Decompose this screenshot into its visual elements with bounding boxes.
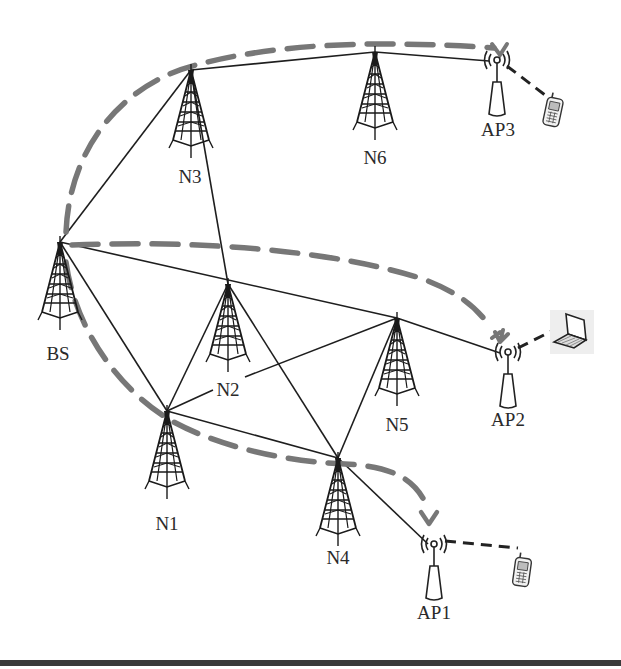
device-phone-ap3[interactable]: [542, 92, 565, 128]
laptop-icon: [550, 310, 594, 354]
wireless-ap1-phone: [445, 541, 518, 548]
access-point-icon: [422, 535, 447, 600]
tower-bs[interactable]: [38, 236, 82, 330]
tower-icon: [353, 46, 397, 140]
backbone-links: [60, 52, 500, 544]
access-point-icon: [485, 51, 510, 116]
link-n5-n4: [338, 318, 397, 458]
tower-icon: [375, 312, 419, 406]
label-n3: N3: [178, 166, 201, 187]
tower-n3[interactable]: [169, 64, 213, 158]
routing-paths: [66, 44, 508, 524]
device-laptop-ap2[interactable]: [550, 310, 594, 354]
route-to-ap3: [66, 44, 494, 232]
tower-n1[interactable]: [145, 405, 189, 499]
route-to-ap2: [72, 244, 488, 324]
tower-n2[interactable]: [206, 278, 250, 372]
label-ap3: AP3: [481, 119, 515, 140]
access-point-icon: [496, 343, 521, 408]
tower-icon: [145, 405, 189, 499]
access-point-ap3[interactable]: [485, 51, 510, 116]
device-phone-ap1[interactable]: [512, 552, 532, 587]
bottom-rule: [0, 660, 621, 666]
tower-icon: [169, 64, 213, 158]
arrowhead-ap1: [421, 512, 437, 524]
mobile-phone-icon: [542, 92, 565, 128]
tower-n5[interactable]: [375, 312, 419, 406]
node-labels: BS N1 N2 N3 N4 N5 N6 AP1 AP2 AP3: [46, 119, 525, 623]
mobile-phone-icon: [512, 552, 532, 587]
wireless-ap3-phone: [507, 66, 545, 95]
label-ap2: AP2: [491, 409, 525, 430]
arrowhead-ap3: [492, 44, 507, 55]
network-diagram: BS N1 N2 N3 N4 N5 N6 AP1 AP2 AP3: [0, 0, 621, 669]
link-n6-ap3: [375, 52, 489, 61]
label-ap1: AP1: [417, 602, 451, 623]
label-bs: BS: [46, 343, 69, 364]
label-n5: N5: [385, 414, 408, 435]
label-n6: N6: [363, 147, 386, 168]
link-n1-n5: [167, 390, 213, 411]
access-point-ap1[interactable]: [422, 535, 447, 600]
tower-icon: [38, 236, 82, 330]
arrowhead-ap2: [492, 330, 508, 342]
link-n5-ap2: [397, 318, 500, 353]
link-bs-n3: [60, 70, 191, 242]
link-bs-n1: [60, 242, 167, 411]
label-n2: N2: [216, 379, 239, 400]
tower-n6[interactable]: [353, 46, 397, 140]
label-n4: N4: [326, 547, 350, 568]
access-point-ap2[interactable]: [496, 343, 521, 408]
label-n1: N1: [155, 513, 178, 534]
tower-icon: [206, 278, 250, 372]
